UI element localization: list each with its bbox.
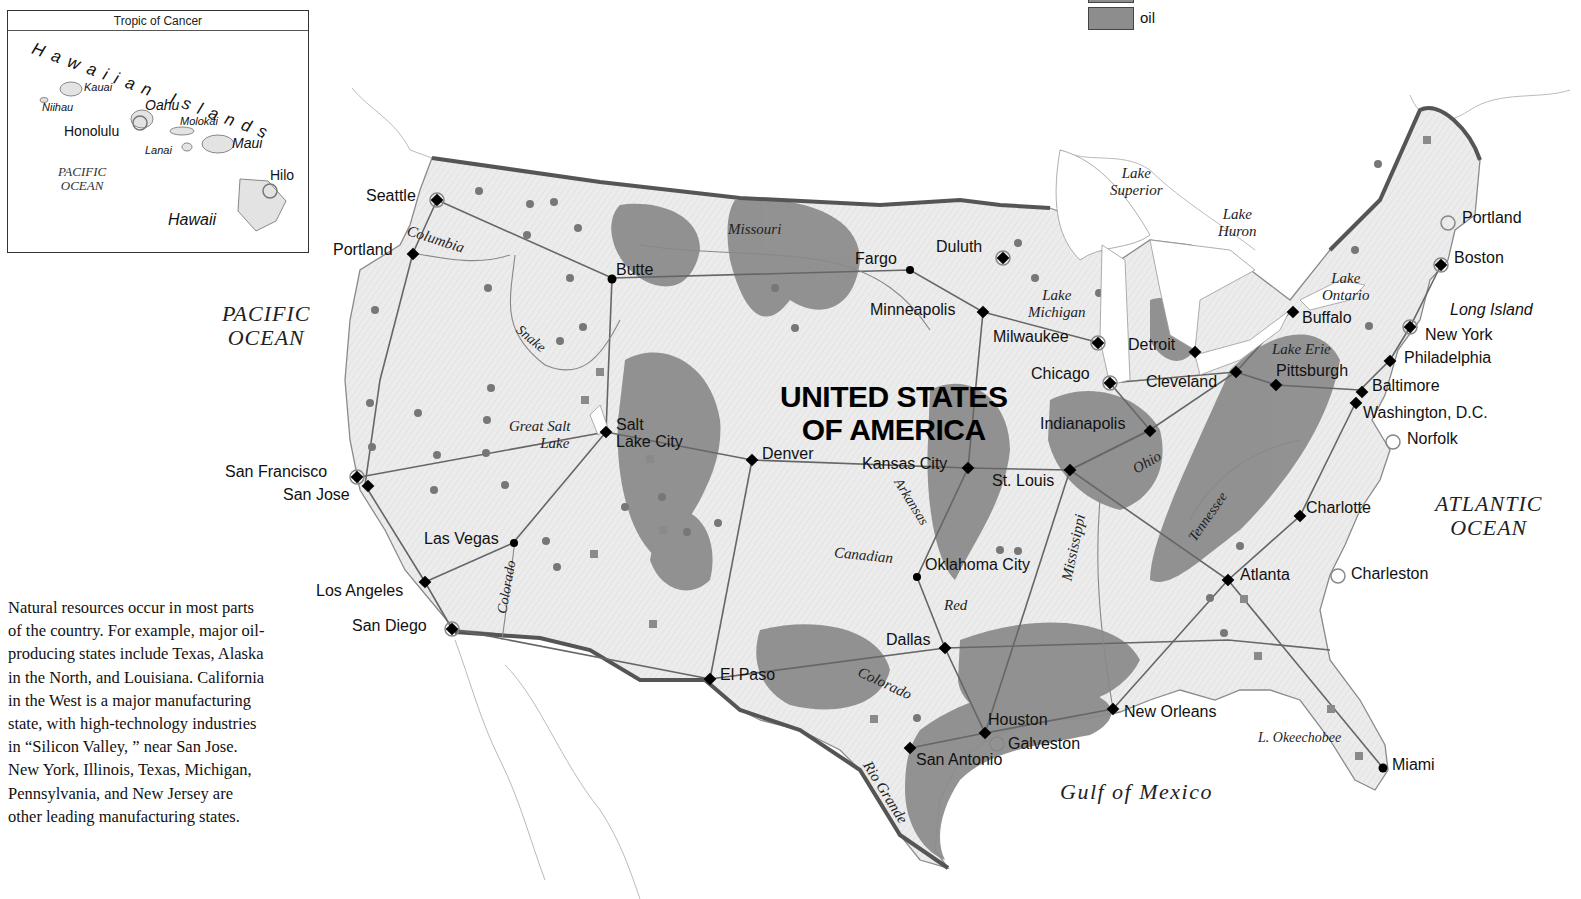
lake-okeechobee: L. Okeechobee <box>1258 730 1341 746</box>
city-washington-dc: Washington, D.C. <box>1363 405 1488 421</box>
city-new-orleans: New Orleans <box>1124 704 1216 720</box>
legend-swatch-oil <box>1088 7 1134 30</box>
city-miami: Miami <box>1392 757 1435 773</box>
island-molokai: Molokai <box>180 115 218 127</box>
city-norfolk: Norfolk <box>1407 431 1458 447</box>
island-lanai: Lanai <box>145 144 172 156</box>
city-san-francisco: San Francisco <box>225 464 327 480</box>
atlantic-ocean-label: ATLANTIC OCEAN <box>1435 492 1542 540</box>
city-salt-lake-city-1: Salt <box>616 417 644 433</box>
country-label: UNITED STATES OF AMERICA <box>780 380 1007 446</box>
city-new-york: New York <box>1425 327 1493 343</box>
city-buffalo: Buffalo <box>1302 310 1352 326</box>
city-atlanta: Atlanta <box>1240 567 1290 583</box>
city-boston: Boston <box>1454 250 1504 266</box>
lake-great-salt: Great Salt Lake <box>509 418 571 453</box>
city-fargo: Fargo <box>855 251 897 267</box>
lake-ontario: Lake Ontario <box>1322 270 1370 305</box>
city-milwaukee: Milwaukee <box>993 329 1069 345</box>
city-butte: Butte <box>616 262 653 278</box>
city-st-louis: St. Louis <box>992 473 1054 489</box>
city-salt-lake-city-2: Lake City <box>616 434 683 450</box>
city-detroit: Detroit <box>1128 337 1175 353</box>
city-portland-or: Portland <box>333 242 393 258</box>
city-hilo: Hilo <box>270 167 294 183</box>
city-philadelphia: Philadelphia <box>1404 350 1491 366</box>
city-charleston: Charleston <box>1351 566 1428 582</box>
long-island-label: Long Island <box>1450 302 1533 318</box>
city-los-angeles: Los Angeles <box>316 583 403 599</box>
lake-superior: Lake Superior <box>1110 165 1163 200</box>
city-portland-me: Portland <box>1462 210 1522 226</box>
city-oklahoma-city: Oklahoma City <box>925 557 1030 573</box>
city-el-paso: El Paso <box>720 667 775 683</box>
city-kansas-city: Kansas City <box>862 456 947 472</box>
map-caption: Natural resources occur in most parts of… <box>8 596 270 828</box>
island-niihau: Niihau <box>42 101 73 113</box>
city-san-antonio: San Antonio <box>916 752 1002 768</box>
city-denver: Denver <box>762 446 814 462</box>
city-charlotte: Charlotte <box>1306 500 1371 516</box>
island-kauai: Kauai <box>84 81 112 93</box>
city-honolulu: Honolulu <box>64 123 119 139</box>
city-pittsburgh: Pittsburgh <box>1276 363 1348 379</box>
city-cleveland: Cleveland <box>1146 374 1217 390</box>
city-houston: Houston <box>988 712 1048 728</box>
city-chicago: Chicago <box>1031 366 1090 382</box>
lake-erie: Lake Erie <box>1272 341 1331 358</box>
city-duluth: Duluth <box>936 239 982 255</box>
city-dallas: Dallas <box>886 632 930 648</box>
river-missouri: Missouri <box>728 222 781 237</box>
city-indianapolis: Indianapolis <box>1040 416 1125 432</box>
island-maui: Maui <box>232 135 262 151</box>
island-oahu: Oahu <box>145 97 179 113</box>
river-red: Red <box>944 598 967 613</box>
hawaii-inset: Tropic of Cancer Hawaiian Islands Kauai … <box>7 10 309 253</box>
city-san-diego: San Diego <box>352 618 427 634</box>
legend-swatch-cropped <box>1088 0 1134 3</box>
lake-michigan: Lake Michigan <box>1028 287 1086 322</box>
gulf-of-mexico-label: Gulf of Mexico <box>1060 780 1213 804</box>
city-san-jose: San Jose <box>283 487 350 503</box>
city-minneapolis: Minneapolis <box>870 302 955 318</box>
city-galveston: Galveston <box>1008 736 1080 752</box>
lake-huron: Lake Huron <box>1218 206 1257 241</box>
pacific-ocean-label: PACIFIC OCEAN <box>222 302 310 350</box>
city-baltimore: Baltimore <box>1372 378 1440 394</box>
inset-pacific-ocean: PACIFIC OCEAN <box>58 165 106 192</box>
island-hawaii: Hawaii <box>168 211 216 229</box>
city-las-vegas: Las Vegas <box>424 531 499 547</box>
legend-label-oil: oil <box>1140 9 1155 26</box>
city-seattle: Seattle <box>366 188 416 204</box>
